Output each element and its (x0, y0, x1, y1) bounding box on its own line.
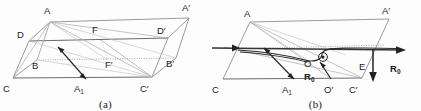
label-A: A (44, 5, 51, 16)
label-B: B (32, 60, 38, 71)
label-D-prime: D′ (157, 25, 166, 36)
label-R0-inner: R0 (304, 71, 315, 83)
displacement-arrow (264, 48, 294, 79)
label-A1: A1 (282, 84, 292, 96)
caption-a: (a) (0, 98, 211, 110)
label-A-prime: A′ (182, 2, 190, 13)
panel-b-drawing: A A′ C C′ A1 O O′ E R0 R0 (210, 0, 421, 111)
label-C-prime: C′ (140, 83, 149, 94)
label-O: O (304, 58, 311, 69)
caption-b: (b) (210, 98, 421, 110)
panel-a-drawing: A A′ D D′ F F′ B B′ C C′ A1 (0, 0, 211, 111)
label-E: E (359, 61, 365, 72)
f-diagonals (29, 40, 152, 77)
label-D: D (17, 29, 24, 40)
panel-a: A A′ D D′ F F′ B B′ C C′ A1 (a) (0, 0, 211, 111)
label-C: C (3, 83, 10, 94)
label-F: F (92, 24, 98, 35)
label-A1: A1 (74, 83, 84, 95)
label-R0-outer: R0 (390, 63, 401, 75)
E-down-arrow (369, 49, 377, 82)
figure-root: A A′ D D′ F F′ B B′ C C′ A1 (a) (0, 0, 421, 111)
vertex-labels: A A′ D D′ F F′ B B′ C C′ A1 (3, 2, 190, 95)
label-C-prime: C′ (349, 84, 358, 95)
label-A-prime: A′ (382, 5, 390, 16)
label-O-prime: O′ (324, 84, 333, 95)
panel-b: A A′ C C′ A1 O O′ E R0 R0 (b) (210, 0, 421, 111)
label-A: A (244, 8, 251, 19)
displacement-arrow (58, 47, 86, 79)
label-B-prime: B′ (166, 58, 174, 69)
label-F-prime: F′ (105, 59, 113, 70)
label-C: C (212, 84, 219, 95)
